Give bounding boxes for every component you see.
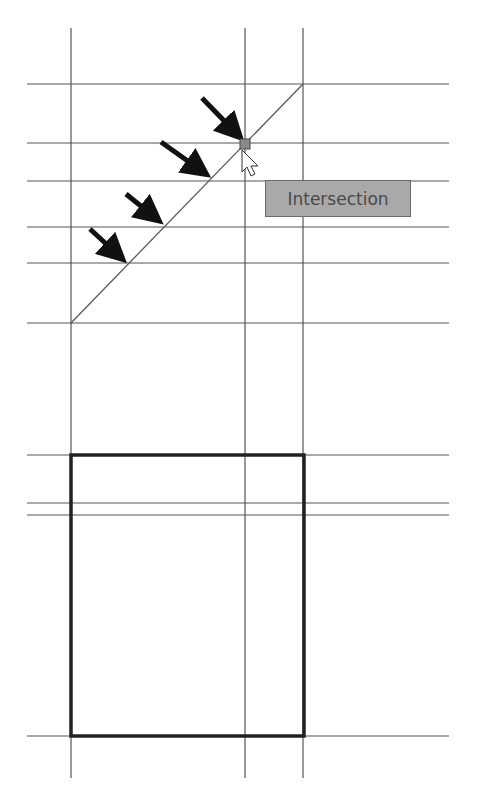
bold-rectangle[interactable]	[71, 455, 304, 736]
arrow-icon	[90, 229, 116, 253]
arrow-icon	[161, 142, 199, 169]
arrow-icon	[126, 194, 152, 215]
drawing-canvas[interactable]	[0, 0, 478, 809]
intersection-snap-marker	[240, 139, 250, 149]
tooltip-label: Intersection	[287, 189, 388, 209]
construction-lines	[27, 28, 449, 778]
arrow-icon	[202, 98, 234, 131]
snap-tooltip: Intersection	[265, 180, 411, 217]
